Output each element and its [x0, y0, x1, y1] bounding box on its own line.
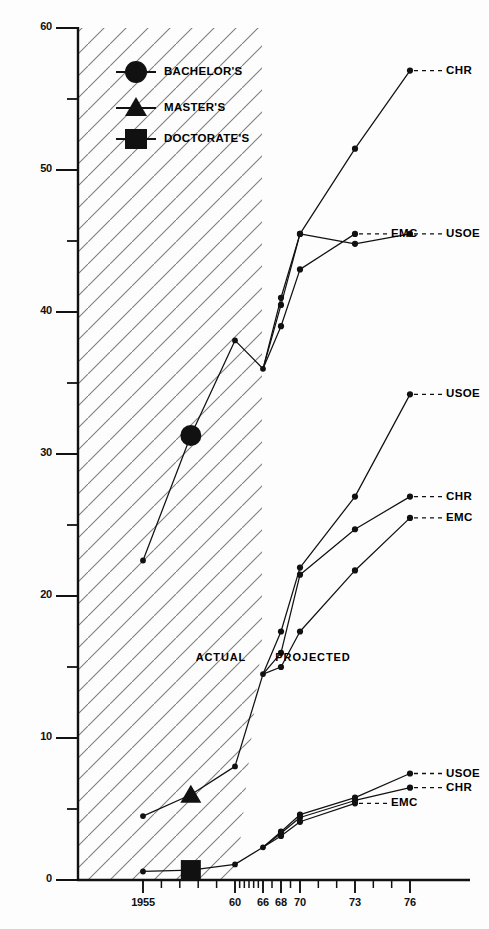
series-end-label-CHR: CHR: [446, 64, 472, 76]
x-tick-label: 76: [390, 896, 430, 908]
legend-item-3: DOCTORATE'S: [164, 132, 249, 144]
series-end-label-EMC: EMC: [391, 796, 418, 808]
series-end-label-EMC: EMC: [391, 227, 418, 239]
x-tick-label: 73: [335, 896, 375, 908]
legend-item-1: BACHELOR'S: [164, 65, 243, 77]
y-tick-label: 30: [16, 446, 52, 458]
y-tick-label: 10: [16, 730, 52, 742]
y-tick-label: 40: [16, 304, 52, 316]
y-tick-label: 0: [16, 872, 52, 884]
region-label-actual: ACTUAL: [196, 651, 247, 663]
y-tick-label: 50: [16, 162, 52, 174]
series-end-label-USOE: USOE: [446, 227, 480, 239]
x-tick-label: 1955: [123, 896, 163, 908]
y-tick-label: 60: [16, 20, 52, 32]
region-label-projected: PROJECTED: [275, 651, 350, 663]
series-end-label-EMC: EMC: [446, 511, 473, 523]
series-end-label-CHR: CHR: [446, 781, 472, 793]
chart-container: 0102030405060 1955606668707376 BACHELOR'…: [0, 0, 489, 929]
hatched-actual-region: [78, 28, 278, 880]
y-tick-label: 20: [16, 588, 52, 600]
series-end-label-USOE: USOE: [446, 767, 480, 779]
legend-item-2: MASTER'S: [164, 101, 225, 113]
series-end-label-USOE: USOE: [446, 387, 480, 399]
series-end-label-CHR: CHR: [446, 490, 472, 502]
x-tick-label: 70: [280, 896, 320, 908]
